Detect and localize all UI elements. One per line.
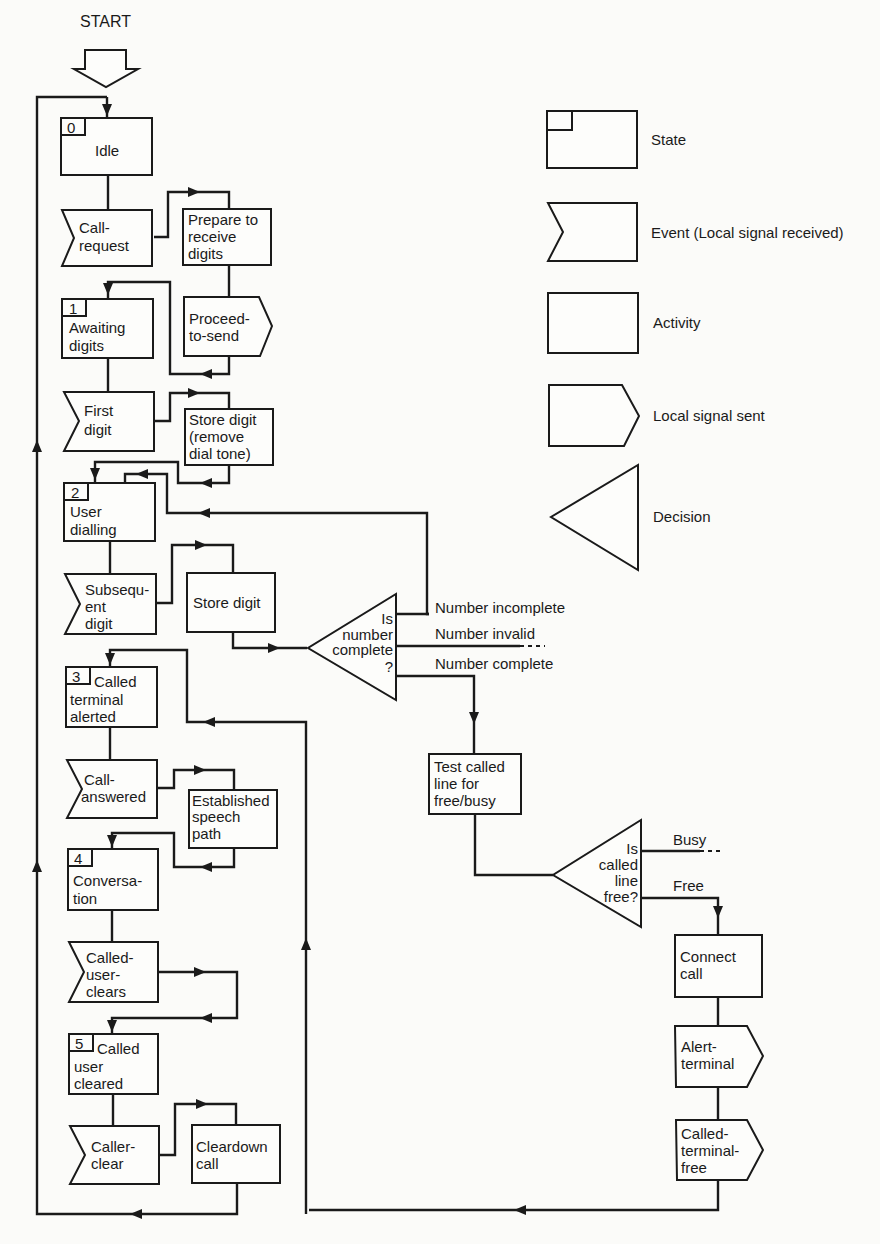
outcome-free: Free: [673, 877, 704, 894]
label-text: User: [70, 503, 102, 520]
label-text: digit: [85, 615, 113, 632]
label-text: ?: [385, 658, 393, 675]
label-text: 2: [71, 484, 79, 501]
label-text: digits: [188, 245, 223, 262]
label-text: alerted: [70, 708, 116, 725]
start-label: START: [80, 13, 131, 30]
label-text: call: [680, 965, 703, 982]
legend: State Event (Local signal received) Acti…: [547, 111, 844, 570]
state-called-user-cleared: 5 Called user cleared: [69, 1034, 158, 1094]
label-text: to-send: [189, 327, 239, 344]
state-idle: 0 Idle: [61, 118, 152, 175]
label-text: answered: [81, 788, 146, 805]
outcome-number-incomplete: Number incomplete: [435, 599, 565, 616]
label-text: Called: [97, 1040, 140, 1057]
label-text: dialling: [70, 521, 117, 538]
event-call-answered: Call- answered: [67, 760, 157, 818]
label-text: clears: [86, 983, 126, 1000]
label-text: Call-: [84, 771, 115, 788]
label-text: (remove: [189, 428, 244, 445]
decision-is-called-line-free: Is called line free? Busy Free: [553, 820, 707, 927]
label-text: ent: [85, 598, 107, 615]
label-text: Is: [626, 840, 638, 857]
label-text: call: [196, 1155, 219, 1172]
label-text: Connect: [680, 948, 737, 965]
legend-decision: Decision: [551, 465, 711, 570]
label-text: dial tone): [189, 445, 251, 462]
label-text: line: [615, 872, 638, 889]
activity-established-speech-path: Established speech path: [189, 790, 277, 848]
label-text: user-: [86, 966, 120, 983]
label-text: Cleardown: [196, 1138, 268, 1155]
label-text: line for: [434, 775, 479, 792]
state-called-terminal-alerted: 3 Called terminal alerted: [66, 667, 157, 727]
label-text: State: [651, 131, 686, 148]
label-text: Activity: [653, 314, 701, 331]
outcome-number-complete: Number complete: [435, 655, 553, 672]
label-text: receive: [188, 228, 236, 245]
activity-store-digit: Store digit: [187, 573, 275, 632]
label-text: Local signal sent: [653, 407, 766, 424]
label-text: 4: [74, 850, 82, 867]
activity-connect-call: Connect call: [675, 935, 762, 997]
label-text: Called-: [86, 949, 134, 966]
event-call-request: Call- request: [62, 210, 152, 266]
legend-signal-sent: Local signal sent: [549, 385, 766, 446]
event-caller-clear: Caller- clear: [70, 1126, 159, 1184]
label-text: complete: [332, 641, 393, 658]
label-text: path: [192, 825, 221, 842]
label-text: Caller-: [91, 1138, 135, 1155]
label-text: Event (Local signal received): [651, 224, 844, 241]
signal-alert-terminal: Alert- terminal: [675, 1026, 763, 1087]
label-text: terminal-: [681, 1142, 739, 1159]
label-text: Decision: [653, 508, 711, 525]
label-text: Idle: [95, 142, 119, 159]
label-text: Store digit: [189, 411, 257, 428]
state-conversation: 4 Conversa- tion: [68, 849, 158, 910]
event-first-digit: First digit: [64, 392, 154, 451]
label-text: Called-: [681, 1125, 729, 1142]
label-text: user: [74, 1058, 103, 1075]
label-text: Alert-: [681, 1038, 717, 1055]
start-arrow-icon: [74, 50, 138, 87]
label-text: free: [681, 1159, 707, 1176]
label-text: terminal: [681, 1055, 734, 1072]
label-text: clear: [91, 1155, 124, 1172]
label-text: Store digit: [193, 594, 261, 611]
outcome-busy: Busy: [673, 831, 707, 848]
label-text: Call-: [79, 219, 110, 236]
state-awaiting-digits: 1 Awaiting digits: [62, 299, 153, 358]
state-user-dialling: 2 User dialling: [64, 483, 155, 541]
label-text: Prepare to: [188, 211, 258, 228]
label-text: Established: [192, 792, 270, 809]
label-text: free/busy: [434, 792, 496, 809]
start-marker: START: [74, 13, 138, 87]
legend-activity: Activity: [548, 293, 701, 353]
activity-prepare-to-receive-digits: Prepare to receive digits: [183, 209, 271, 265]
label-text: speech: [192, 808, 240, 825]
label-text: digits: [69, 337, 104, 354]
label-text: cleared: [74, 1075, 123, 1092]
signal-called-terminal-free: Called- terminal- free: [676, 1120, 763, 1180]
label-text: tion: [73, 890, 97, 907]
label-text: terminal: [70, 691, 123, 708]
outcome-number-invalid: Number invalid: [435, 625, 535, 642]
label-text: Awaiting: [69, 319, 125, 336]
label-text: Proceed-: [189, 310, 250, 327]
label-text: Subsequ-: [85, 581, 149, 598]
label-text: free?: [604, 888, 638, 905]
signal-proceed-to-send: Proceed- to-send: [184, 297, 272, 356]
label-text: Called: [94, 673, 137, 690]
flowchart: START: [0, 0, 880, 1244]
activity-cleardown-call: Cleardown call: [192, 1125, 280, 1183]
label-text: 1: [69, 300, 77, 317]
label-text: Is: [381, 610, 393, 627]
legend-event: Event (Local signal received): [548, 203, 844, 261]
label-text: request: [79, 237, 130, 254]
label-text: digit: [84, 421, 112, 438]
label-text: 5: [75, 1035, 83, 1052]
label-text: First: [84, 402, 114, 419]
label-text: called: [599, 856, 638, 873]
label-text: Conversa-: [73, 872, 142, 889]
label-text: Test called: [434, 758, 505, 775]
